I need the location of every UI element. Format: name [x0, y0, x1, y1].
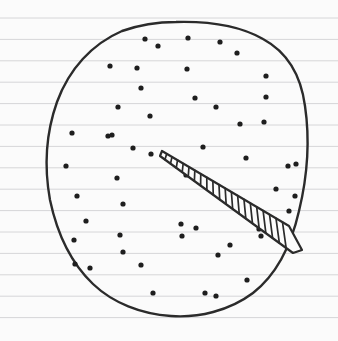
- notebook-page: [0, 0, 338, 341]
- ink-dot: [184, 66, 189, 71]
- ink-dot: [217, 39, 222, 44]
- ink-dot: [261, 119, 266, 124]
- hand-drawn-figure: [0, 0, 338, 341]
- ink-dot: [83, 218, 88, 223]
- ink-dot: [213, 293, 218, 298]
- ink-dot: [292, 193, 297, 198]
- wedge-rung: [182, 164, 183, 173]
- ink-dot: [293, 161, 298, 166]
- ink-dot: [237, 121, 242, 126]
- ink-dot: [72, 261, 77, 266]
- ink-dot: [74, 193, 79, 198]
- ink-dot: [87, 265, 92, 270]
- ink-dot: [234, 50, 239, 55]
- ink-dot: [148, 151, 153, 156]
- ink-dot: [244, 277, 249, 282]
- ink-dot: [227, 242, 232, 247]
- ink-dot: [286, 208, 291, 213]
- ink-dot: [120, 201, 125, 206]
- ink-dot: [130, 145, 135, 150]
- ink-dot: [263, 73, 268, 78]
- ink-dot: [193, 225, 198, 230]
- ink-dot: [71, 237, 76, 242]
- ink-dot: [185, 35, 190, 40]
- ink-dot: [213, 104, 218, 109]
- ink-dot: [178, 221, 183, 226]
- ink-dot: [120, 249, 125, 254]
- ink-dot: [179, 233, 184, 238]
- ink-dot: [243, 155, 248, 160]
- ink-dot: [285, 163, 290, 168]
- wedge-rung: [188, 167, 189, 177]
- ink-dot: [138, 85, 143, 90]
- ink-dot: [114, 175, 119, 180]
- ink-dot: [273, 186, 278, 191]
- ink-dot: [115, 104, 120, 109]
- ink-dot: [215, 252, 220, 257]
- ink-dot: [117, 232, 122, 237]
- ink-dot: [107, 63, 112, 68]
- ink-dot: [63, 163, 68, 168]
- ink-dot: [134, 65, 139, 70]
- ink-dot: [138, 262, 143, 267]
- ink-dot: [105, 133, 110, 138]
- ink-dot: [147, 113, 152, 118]
- ink-dot: [192, 95, 197, 100]
- ink-dot: [150, 290, 155, 295]
- wedge-rung: [219, 185, 220, 200]
- ink-dot: [263, 94, 268, 99]
- ink-dot: [155, 43, 160, 48]
- wedge-rung: [225, 188, 226, 204]
- ink-dot: [142, 36, 147, 41]
- ink-dot: [258, 233, 263, 238]
- ink-dot: [69, 130, 74, 135]
- ink-dot: [202, 290, 207, 295]
- ink-dot: [200, 144, 205, 149]
